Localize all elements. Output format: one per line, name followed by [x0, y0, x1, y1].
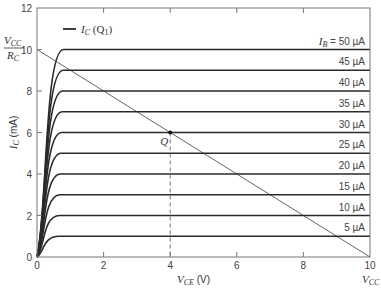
y-tick-label: 4	[26, 169, 32, 180]
y-axis-label: IC (mA)	[7, 116, 21, 150]
chart: 0246810024681012IB = 50 µA45 µA40 µA35 µ…	[0, 0, 381, 289]
q-point	[168, 131, 172, 135]
x-tick-label: 8	[301, 260, 307, 271]
ib-curve-label: 25 µA	[339, 139, 366, 150]
ib-curve-label: 5 µA	[344, 222, 365, 233]
ib-curve	[37, 153, 370, 257]
ib-curve-label: 45 µA	[339, 56, 366, 67]
collector-curves	[37, 50, 370, 258]
x-tick-label: 6	[234, 260, 240, 271]
ib-curve-label: 20 µA	[339, 160, 366, 171]
x-tick-label: 2	[101, 260, 107, 271]
y-tick-label: 8	[26, 86, 32, 97]
y-tick-label: 6	[26, 128, 32, 139]
ib-curve	[37, 112, 370, 257]
ib-curve-label: 35 µA	[339, 98, 366, 109]
ib-curve-label: 15 µA	[339, 181, 366, 192]
vcc-over-rc-numerator: VCC	[4, 34, 22, 48]
ib-curve-label: 40 µA	[339, 77, 366, 88]
x-tick-label: 4	[167, 260, 173, 271]
x-axis-label: VCE (V)	[177, 273, 210, 287]
y-tick-label: 2	[26, 211, 32, 222]
q-label: Q	[160, 135, 168, 147]
ib-curve-label: IB = 50 µA	[318, 35, 366, 49]
x-tick-label: 10	[364, 260, 376, 271]
labels: 0246810024681012IB = 50 µA45 µA40 µA35 µ…	[4, 3, 380, 287]
y-tick-label: 0	[26, 252, 32, 263]
ib-curve-label: 30 µA	[339, 119, 366, 130]
ib-curve-label: 10 µA	[339, 202, 366, 213]
y-tick-label: 12	[21, 3, 33, 14]
y-tick-label: 10	[21, 45, 33, 56]
ib-curve	[37, 236, 370, 257]
legend-label: IC (Q1)	[80, 23, 112, 37]
vcc-over-rc-denominator: RC	[6, 49, 20, 63]
x-tick-label: 0	[34, 260, 40, 271]
ib-curve	[37, 70, 370, 257]
vcc-x-label: VCC	[362, 273, 380, 287]
